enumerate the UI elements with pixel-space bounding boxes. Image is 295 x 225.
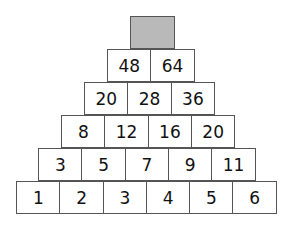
pyramid-cell: 11 — [211, 148, 256, 181]
pyramid-cell: 5 — [189, 181, 234, 214]
pyramid-cell: 1 — [16, 181, 61, 214]
pyramid-cell: 28 — [127, 82, 172, 115]
pyramid-cell: 20 — [84, 82, 129, 115]
pyramid-cell: 64 — [150, 49, 195, 82]
pyramid-cell: 6 — [232, 181, 277, 214]
pyramid-cell: 16 — [148, 115, 193, 148]
pyramid-row-4: 8 12 16 20 — [61, 115, 235, 148]
pyramid-cell: 5 — [81, 148, 126, 181]
pyramid-row-2: 48 64 — [107, 49, 195, 82]
pyramid-cell: 48 — [107, 49, 152, 82]
pyramid-cell: 12 — [104, 115, 149, 148]
pyramid-cell: 20 — [191, 115, 236, 148]
pyramid-cell: 4 — [146, 181, 191, 214]
pyramid-cell: 9 — [168, 148, 213, 181]
pyramid-cell: 36 — [171, 82, 216, 115]
pyramid-cell: 3 — [38, 148, 83, 181]
pyramid-cell: 2 — [59, 181, 104, 214]
pyramid-row-5: 3 5 7 9 11 — [38, 148, 256, 181]
pyramid-cell: 7 — [125, 148, 170, 181]
pyramid-row-1 — [130, 16, 175, 49]
pyramid-cell: 8 — [61, 115, 106, 148]
number-pyramid: 48 64 20 28 36 8 12 16 20 3 5 7 9 11 1 2… — [0, 0, 295, 225]
pyramid-cell-unknown — [130, 16, 175, 49]
pyramid-cell: 3 — [103, 181, 148, 214]
pyramid-row-6: 1 2 3 4 5 6 — [16, 181, 277, 214]
pyramid-row-3: 20 28 36 — [84, 82, 215, 115]
